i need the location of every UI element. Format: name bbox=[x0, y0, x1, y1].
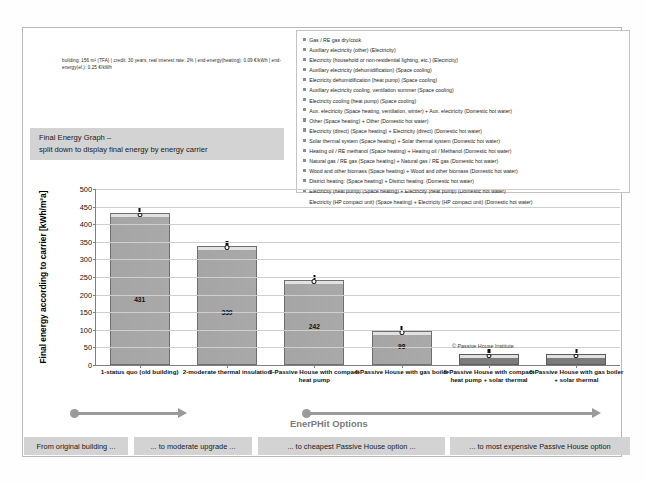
y-tick-mark bbox=[93, 330, 96, 331]
y-tick-mark bbox=[93, 277, 96, 278]
gridline bbox=[96, 295, 620, 296]
legend-item: Aux. electricity (Space heating, ventila… bbox=[303, 106, 625, 116]
legend-swatch-icon bbox=[303, 149, 306, 152]
gridline bbox=[96, 347, 620, 348]
x-axis-label: 3-Passive House with compact heat pump bbox=[265, 368, 364, 385]
legend-item-label: Auxiliary electricity cooling, ventilati… bbox=[309, 85, 453, 95]
legend-item: Other (Space heating) + Other (Domestic … bbox=[303, 116, 625, 126]
x-axis-label: 4-Passive House with gas boiler bbox=[352, 368, 451, 376]
legend-swatch-icon bbox=[303, 68, 306, 71]
arrow-1 bbox=[70, 411, 188, 415]
gridline bbox=[96, 277, 620, 278]
callout-line-1: Final Energy Graph – bbox=[39, 132, 284, 144]
legend-item-label: Auxiliary electricity (dehumidification)… bbox=[309, 65, 432, 75]
y-tick-label: 100 bbox=[80, 325, 92, 334]
legend-item: Electricity cooling (heat pump) (Space c… bbox=[303, 96, 625, 106]
legend-swatch-icon bbox=[303, 48, 306, 51]
gridline bbox=[96, 207, 620, 208]
legend-swatch-icon bbox=[303, 58, 306, 61]
legend-swatch-icon bbox=[303, 159, 306, 162]
legend-item-label: Wood and other biomass (Space heating) +… bbox=[309, 166, 517, 176]
legend-item-label: Natural gas / RE gas (Space heating) + N… bbox=[309, 156, 498, 166]
y-tick-mark bbox=[93, 207, 96, 208]
legend-item: Solar thermal system (Space heating) + S… bbox=[303, 136, 625, 146]
chart-legend: Gas / RE gas dry/cookAuxiliary electrici… bbox=[296, 30, 630, 193]
copyright-note: © Passive House Institute bbox=[452, 343, 514, 349]
caption-chip[interactable]: From original building ... bbox=[24, 437, 128, 455]
y-tick-mark bbox=[93, 224, 96, 225]
legend-item-label: Aux. electricity (Space heating, ventila… bbox=[309, 106, 512, 116]
caption-chip[interactable]: ... to most expensive Passive House opti… bbox=[450, 437, 630, 455]
slide-canvas: building: 156 m² (TFA) | credit: 30 year… bbox=[0, 0, 645, 483]
y-tick-label: 0 bbox=[88, 361, 92, 370]
x-axis-label: 5-Passive House with compact heat pump +… bbox=[439, 368, 538, 385]
y-tick-mark bbox=[93, 259, 96, 260]
enerphit-options-label: EnerPHit Options bbox=[290, 418, 368, 429]
legend-item-label: Heating oil / RE methanol (Space heating… bbox=[309, 146, 511, 156]
bar-handle-icon[interactable] bbox=[574, 349, 579, 358]
x-axis-label: 1-status quo (old building) bbox=[90, 368, 189, 376]
y-tick-mark bbox=[93, 189, 96, 190]
legend-item: Gas / RE gas dry/cook bbox=[303, 35, 625, 45]
x-axis-label: 2-moderate thermal insulation bbox=[177, 368, 276, 376]
legend-item-label: Solar thermal system (Space heating) + S… bbox=[309, 136, 500, 146]
bar[interactable]: 242 bbox=[284, 280, 344, 365]
bar[interactable]: 431 bbox=[110, 213, 170, 365]
y-tick-label: 400 bbox=[80, 220, 92, 229]
y-tick-label: 200 bbox=[80, 290, 92, 299]
legend-item-label: Electricity (direct) (Space heating) + E… bbox=[309, 126, 482, 136]
legend-swatch-icon bbox=[303, 78, 306, 81]
legend-item-label: Other (Space heating) + Other (Domestic … bbox=[309, 116, 428, 126]
arrow-head-icon bbox=[178, 408, 187, 418]
legend-item: Electricity (household or non-residentia… bbox=[303, 55, 625, 65]
legend-item: District heating: (Space heating) + Dist… bbox=[303, 176, 625, 186]
y-tick-label: 150 bbox=[80, 308, 92, 317]
bar-value-label: 431 bbox=[111, 296, 169, 303]
legend-item-label: Electricity dehumidification (heat pump)… bbox=[309, 75, 437, 85]
legend-swatch-icon bbox=[303, 139, 306, 142]
legend-item: Electricity (direct) (Space heating) + E… bbox=[303, 126, 625, 136]
y-tick-mark bbox=[93, 312, 96, 313]
arrow-head-icon bbox=[592, 408, 601, 418]
legend-item-label: Electricity cooling (heat pump) (Space c… bbox=[309, 96, 416, 106]
bar-handle-icon[interactable] bbox=[486, 349, 491, 358]
arrow-line bbox=[74, 412, 178, 415]
callout-box: Final Energy Graph – split down to displ… bbox=[30, 128, 284, 160]
gridline bbox=[96, 312, 620, 313]
legend-item: Auxiliary electricity (other) (Electrici… bbox=[303, 45, 625, 55]
y-tick-mark bbox=[93, 365, 96, 366]
gridline bbox=[96, 242, 620, 243]
legend-item: Auxiliary electricity (dehumidification)… bbox=[303, 65, 625, 75]
y-tick-mark bbox=[93, 295, 96, 296]
legend-item: Auxiliary electricity cooling, ventilati… bbox=[303, 85, 625, 95]
caption-chip-row: From original building ...... to moderat… bbox=[22, 437, 630, 457]
legend-swatch-icon bbox=[303, 98, 306, 101]
legend-swatch-icon bbox=[303, 108, 306, 111]
legend-item-label: Electricity (household or non-residentia… bbox=[309, 55, 458, 65]
gridline bbox=[96, 189, 620, 190]
x-axis-label: 6-Passive House with gas boiler + solar … bbox=[527, 368, 626, 385]
gridline bbox=[96, 224, 620, 225]
caption-chip[interactable]: ... to moderate upgrade ... bbox=[134, 437, 252, 455]
legend-item-label: District heating: (Space heating) + Dist… bbox=[309, 176, 474, 186]
bar-handle-icon[interactable] bbox=[137, 208, 142, 217]
final-energy-bar-chart: Final energy according to carrier [kWh/m… bbox=[28, 186, 622, 386]
legend-swatch-icon bbox=[303, 179, 306, 182]
assumptions-note: building: 156 m² (TFA) | credit: 30 year… bbox=[62, 58, 294, 72]
legend-swatch-icon bbox=[303, 38, 306, 41]
callout-line-2: split down to display final energy by en… bbox=[39, 144, 284, 156]
y-tick-label: 500 bbox=[80, 185, 92, 194]
legend-item-label: Gas / RE gas dry/cook bbox=[309, 35, 361, 45]
arrow-line bbox=[306, 412, 592, 415]
legend-item: Wood and other biomass (Space heating) +… bbox=[303, 166, 625, 176]
legend-item-label: Auxiliary electricity (other) (Electrici… bbox=[309, 45, 395, 55]
y-axis-title: Final energy according to carrier [kWh/m… bbox=[38, 186, 50, 368]
legend-item: Heating oil / RE methanol (Space heating… bbox=[303, 146, 625, 156]
gridline bbox=[96, 330, 620, 331]
legend-item: Electricity dehumidification (heat pump)… bbox=[303, 75, 625, 85]
y-tick-label: 300 bbox=[80, 255, 92, 264]
legend-swatch-icon bbox=[303, 118, 306, 121]
caption-chip[interactable]: ... to cheapest Passive House option ... bbox=[258, 437, 445, 455]
y-tick-label: 450 bbox=[80, 202, 92, 211]
arrow-2 bbox=[302, 411, 602, 415]
